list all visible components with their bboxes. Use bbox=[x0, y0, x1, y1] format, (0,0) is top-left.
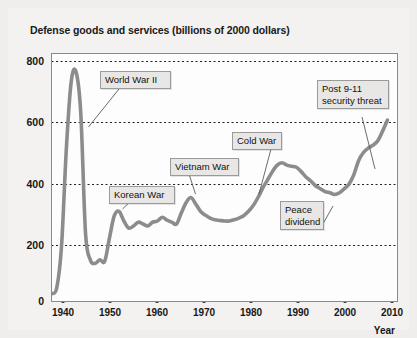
annotation-post-911-security-threat: Post 9-11 security threat bbox=[317, 80, 389, 109]
y-axis-tick-0: 0 bbox=[10, 295, 44, 307]
annotation-peace-dividend: Peace dividend bbox=[280, 201, 324, 230]
chart-title: Defense goods and services (billions of … bbox=[30, 24, 290, 36]
chart-card: Defense goods and services (billions of … bbox=[8, 8, 409, 330]
x-axis-tick-1950: 1950 bbox=[90, 307, 130, 318]
x-axis-tick-2000: 2000 bbox=[325, 307, 365, 318]
annotation-cold-war: Cold War bbox=[232, 132, 282, 150]
y-axis-tick-600: 600 bbox=[10, 116, 44, 128]
annotation-korean-war: Korean War bbox=[109, 186, 175, 204]
y-axis-tick-200: 200 bbox=[10, 239, 44, 251]
chart-figure: Defense goods and services (billions of … bbox=[0, 0, 417, 338]
y-axis-tick-800: 800 bbox=[10, 55, 44, 67]
x-axis-tick-1940: 1940 bbox=[43, 307, 83, 318]
x-axis-tick-1970: 1970 bbox=[184, 307, 224, 318]
x-axis-label: Year bbox=[374, 325, 395, 336]
x-axis-tick-1980: 1980 bbox=[231, 307, 271, 318]
y-axis-tick-400: 400 bbox=[10, 178, 44, 190]
x-axis-tick-2010: 2010 bbox=[372, 307, 412, 318]
annotation-vietnam-war: Vietnam War bbox=[170, 158, 239, 176]
annotation-world-war-ii: World War II bbox=[100, 71, 171, 89]
x-axis-tick-1960: 1960 bbox=[137, 307, 177, 318]
x-axis-tick-1990: 1990 bbox=[278, 307, 318, 318]
